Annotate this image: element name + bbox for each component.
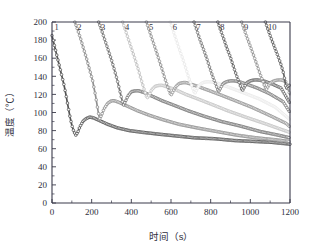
series-curves xyxy=(51,21,292,146)
series-marker-8 xyxy=(224,41,227,44)
series-marker-9 xyxy=(246,37,249,40)
series-marker-1 xyxy=(71,125,74,128)
series-marker-10 xyxy=(283,77,286,80)
series-marker-4 xyxy=(130,45,133,48)
series-marker-7 xyxy=(200,42,203,45)
series-marker-7 xyxy=(213,79,216,82)
series-marker-5 xyxy=(155,49,158,52)
series-marker-1 xyxy=(60,73,63,76)
series-marker-2 xyxy=(94,92,97,95)
series-marker-5 xyxy=(152,42,155,45)
series-marker-10 xyxy=(275,50,278,53)
series-marker-2 xyxy=(95,98,98,101)
series-marker-1 xyxy=(64,89,67,92)
y-tick-label: 20 xyxy=(38,180,48,190)
series-marker-3 xyxy=(120,95,123,98)
curve-label-3: 3 xyxy=(101,22,105,32)
series-marker-4 xyxy=(137,67,140,70)
series-marker-3 xyxy=(116,80,119,83)
curve-label-6: 6 xyxy=(173,22,177,32)
series-marker-10 xyxy=(269,34,272,37)
series-marker-2 xyxy=(90,75,93,78)
series-marker-6 xyxy=(189,81,192,84)
series-marker-2 xyxy=(84,54,87,57)
series-marker-6 xyxy=(187,74,190,77)
series-marker-7 xyxy=(208,66,211,69)
series-marker-9 xyxy=(253,57,256,60)
x-tick-label: 200 xyxy=(85,207,99,217)
series-marker-8 xyxy=(228,54,231,57)
series-line-5 xyxy=(146,22,289,127)
series-marker-5 xyxy=(159,64,162,67)
series-marker-4 xyxy=(149,92,152,95)
series-marker-3 xyxy=(109,56,112,59)
series-marker-2 xyxy=(85,58,88,61)
series-marker-10 xyxy=(278,60,281,63)
series-marker-5 xyxy=(168,89,171,92)
series-marker-9 xyxy=(256,64,259,67)
series-marker-8 xyxy=(222,38,225,41)
series-marker-8 xyxy=(238,81,241,84)
series-marker-3 xyxy=(104,41,107,44)
series-marker-8 xyxy=(233,68,236,71)
series-marker-6 xyxy=(182,59,185,62)
series-marker-4 xyxy=(133,56,136,59)
series-marker-3 xyxy=(108,52,111,55)
y-tick-label: 200 xyxy=(34,17,48,27)
series-marker-1 xyxy=(77,130,80,133)
series-marker-8 xyxy=(239,85,242,88)
series-marker-9 xyxy=(250,47,253,50)
y-tick-label: 0 xyxy=(43,198,48,208)
series-marker-8 xyxy=(231,61,234,64)
series-marker-5 xyxy=(161,67,164,70)
series-marker-2 xyxy=(87,62,90,65)
series-marker-7 xyxy=(206,58,209,61)
series-marker-7 xyxy=(205,55,208,58)
series-marker-7 xyxy=(211,73,214,76)
series-marker-1 xyxy=(72,129,75,132)
series-marker-9 xyxy=(260,77,263,80)
curve-label-9: 9 xyxy=(244,22,248,32)
series-marker-2 xyxy=(89,71,92,74)
series-marker-2 xyxy=(83,50,86,53)
series-marker-2 xyxy=(101,112,104,115)
series-marker-5 xyxy=(163,75,166,78)
series-marker-9 xyxy=(257,67,260,70)
series-marker-7 xyxy=(214,82,217,85)
series-marker-7 xyxy=(215,85,218,88)
series-marker-7 xyxy=(209,69,212,72)
y-tick-label: 120 xyxy=(34,90,48,100)
series-marker-5 xyxy=(156,53,159,56)
series-marker-1 xyxy=(67,108,70,111)
series-marker-6 xyxy=(190,84,193,87)
x-tick-label: 1200 xyxy=(281,207,300,217)
curve-label-2: 2 xyxy=(77,22,81,32)
series-marker-7 xyxy=(201,45,204,48)
series-marker-5 xyxy=(157,56,160,59)
series-marker-10 xyxy=(282,71,285,74)
series-marker-2 xyxy=(96,106,99,109)
series-marker-6 xyxy=(178,49,181,52)
series-marker-10 xyxy=(281,67,284,70)
y-tick-label: 40 xyxy=(38,162,48,172)
series-marker-5 xyxy=(162,71,165,74)
series-marker-5 xyxy=(158,60,161,63)
series-marker-8 xyxy=(232,65,235,68)
x-tick-label: 1000 xyxy=(241,207,260,217)
series-marker-3 xyxy=(103,38,106,41)
series-marker-9 xyxy=(247,41,250,44)
series-marker-5 xyxy=(166,86,169,89)
series-marker-10 xyxy=(280,63,283,66)
series-marker-1 xyxy=(55,54,58,57)
series-marker-2 xyxy=(100,115,103,118)
series-marker-8 xyxy=(226,48,229,51)
series-marker-9 xyxy=(252,54,255,57)
series-marker-5 xyxy=(164,79,167,82)
y-tick-label: 80 xyxy=(38,126,48,136)
series-marker-1 xyxy=(63,83,66,86)
series-marker-1 xyxy=(61,78,64,81)
series-marker-4 xyxy=(138,71,141,74)
series-marker-4 xyxy=(128,42,131,45)
series-marker-4 xyxy=(143,88,146,91)
series-marker-1 xyxy=(59,68,62,71)
